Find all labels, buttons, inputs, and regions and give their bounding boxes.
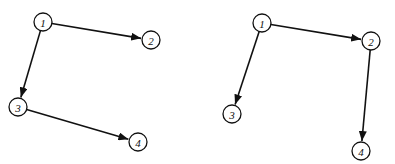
graphs-layer: 12341234 [9, 13, 380, 160]
node-2: 2 [142, 31, 160, 49]
node-4: 4 [129, 133, 147, 151]
node-1: 1 [253, 14, 271, 32]
diagram-canvas: 12341234 [0, 0, 395, 164]
node-2: 2 [362, 32, 380, 50]
edge-1-to-2 [52, 23, 141, 38]
edge-3-to-4 [27, 110, 129, 140]
node-label: 4 [358, 146, 364, 158]
left-graph: 1234 [9, 13, 160, 151]
node-label: 3 [14, 102, 21, 114]
node-label: 1 [259, 18, 265, 30]
node-4: 4 [352, 142, 370, 160]
right-graph: 1234 [223, 14, 380, 160]
edge-1-to-2 [271, 24, 361, 39]
edge-2-to-4 [362, 50, 370, 141]
node-label: 3 [228, 109, 235, 121]
edge-1-to-3 [21, 31, 41, 98]
node-3: 3 [223, 105, 241, 123]
edge-1-to-3 [235, 32, 259, 105]
node-label: 2 [368, 36, 374, 48]
node-3: 3 [9, 98, 27, 116]
node-label: 1 [40, 17, 46, 29]
node-label: 4 [135, 137, 141, 149]
node-label: 2 [148, 35, 154, 47]
node-1: 1 [34, 13, 52, 31]
